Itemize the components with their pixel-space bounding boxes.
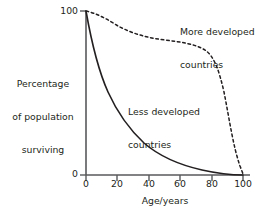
x-tick-label-60: 60 [168, 179, 192, 190]
series-label-less-developed: Less developed countries [128, 85, 200, 173]
x-tick-label-40: 40 [137, 179, 161, 190]
series-label-more-developed-line-1: More developed [180, 27, 255, 38]
y-axis-title-line-2: of population [4, 112, 82, 123]
series-label-less-developed-line-2: countries [128, 140, 200, 151]
x-tick-label-80: 80 [200, 179, 224, 190]
x-axis-title: Age/years [130, 196, 200, 207]
y-tick-label-100: 100 [52, 6, 78, 17]
y-axis-title-line-3: surviving [4, 145, 82, 156]
series-label-less-developed-line-1: Less developed [128, 107, 200, 118]
y-axis-title: Percentage of population surviving [4, 57, 82, 178]
x-tick-label-0: 0 [74, 179, 98, 190]
x-tick-label-100: 100 [231, 179, 255, 190]
series-label-more-developed: More developed countries [180, 5, 255, 93]
survivorship-curve-figure: 100 0 0 20 40 60 80 100 Age/years Percen… [0, 0, 268, 214]
x-tick-label-20: 20 [105, 179, 129, 190]
y-axis-title-line-1: Percentage [4, 79, 82, 90]
series-label-more-developed-line-2: countries [180, 60, 255, 71]
